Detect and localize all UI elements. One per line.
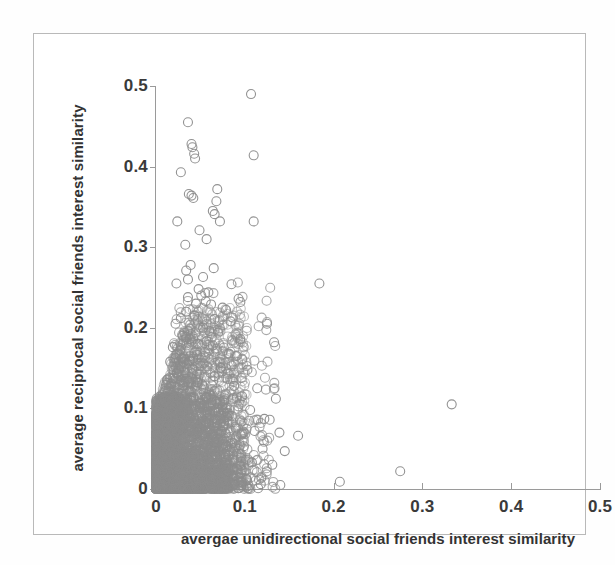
scatter-point bbox=[233, 278, 242, 287]
y-axis-tick-label: 0.5 bbox=[96, 77, 148, 94]
plot-area bbox=[156, 86, 600, 489]
x-axis-tick-label: 0.3 bbox=[410, 498, 434, 515]
scatter-point bbox=[215, 217, 224, 226]
scatter-point bbox=[335, 477, 344, 486]
scatter-point bbox=[213, 185, 222, 194]
y-axis-title-container: average reciprocal social friends intere… bbox=[64, 86, 90, 489]
scatter-point bbox=[195, 226, 204, 235]
scatter-point bbox=[247, 90, 256, 99]
scatter-point bbox=[266, 283, 275, 292]
y-axis-title: average reciprocal social friends intere… bbox=[69, 104, 86, 471]
scatter-point bbox=[260, 373, 269, 382]
scatter-point bbox=[181, 240, 190, 249]
scatter-point bbox=[182, 266, 191, 275]
scatter-point bbox=[280, 447, 289, 456]
scatter-point bbox=[172, 279, 181, 288]
chart-frame: average reciprocal social friends intere… bbox=[33, 33, 586, 535]
scatter-point bbox=[199, 273, 208, 282]
scatter-point bbox=[396, 467, 405, 476]
scatter-point bbox=[186, 260, 195, 269]
scatter-point bbox=[253, 384, 262, 393]
scatter-point bbox=[236, 298, 245, 307]
x-tick-mark bbox=[600, 483, 601, 489]
y-axis-tick-label: 0.4 bbox=[96, 158, 148, 175]
scatter-point bbox=[188, 143, 197, 152]
scatter-point bbox=[209, 264, 218, 273]
y-axis-tick-label: 0 bbox=[96, 480, 148, 497]
scatter-point bbox=[227, 280, 236, 289]
x-axis-tick-label: 0.5 bbox=[588, 498, 612, 515]
figure-container: average reciprocal social friends intere… bbox=[0, 0, 615, 565]
scatter-point bbox=[201, 297, 210, 306]
x-axis-tick-label: 0.1 bbox=[233, 498, 257, 515]
scatter-point bbox=[265, 415, 274, 424]
scatter-point bbox=[270, 384, 279, 393]
scatter-point bbox=[212, 197, 221, 206]
x-axis-tick-label: 0.2 bbox=[321, 498, 345, 515]
x-axis-title: avergae unidirectional social friends in… bbox=[156, 530, 600, 547]
y-axis-tick-label: 0.3 bbox=[96, 238, 148, 255]
scatter-point bbox=[275, 428, 284, 437]
scatter-point bbox=[315, 279, 324, 288]
scatter-point bbox=[249, 151, 258, 160]
scatter-point bbox=[294, 431, 303, 440]
scatter-point bbox=[447, 400, 456, 409]
y-axis-tick-label: 0.2 bbox=[96, 319, 148, 336]
scatter-plot bbox=[156, 86, 600, 489]
scatter-point bbox=[262, 296, 271, 305]
scatter-point bbox=[202, 235, 211, 244]
y-axis-tick-labels: 00.10.20.30.40.5 bbox=[92, 34, 148, 565]
scatter-point bbox=[176, 168, 185, 177]
scatter-point bbox=[183, 118, 192, 127]
scatter-point-group bbox=[152, 90, 457, 494]
x-axis-tick-label: 0.4 bbox=[499, 498, 523, 515]
y-axis-tick-label: 0.1 bbox=[96, 399, 148, 416]
scatter-point bbox=[254, 322, 263, 331]
scatter-point bbox=[173, 217, 182, 226]
scatter-point bbox=[249, 217, 258, 226]
scatter-point bbox=[271, 394, 280, 403]
x-axis-tick-labels: 00.10.20.30.40.5 bbox=[34, 498, 615, 524]
scatter-point bbox=[183, 275, 192, 284]
x-axis-tick-label: 0 bbox=[151, 498, 161, 515]
